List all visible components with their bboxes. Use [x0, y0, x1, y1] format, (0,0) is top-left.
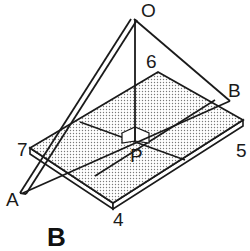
label-6: 6	[146, 51, 157, 72]
label-4: 4	[113, 209, 124, 230]
figure-caption: B	[47, 222, 66, 251]
label-a: A	[6, 189, 19, 210]
label-7: 7	[17, 139, 28, 160]
geometry-figure: O 6 B 7 5 P A 4 B	[0, 0, 250, 251]
label-p: P	[130, 145, 143, 166]
label-b: B	[228, 80, 241, 101]
label-o: O	[141, 0, 156, 21]
label-5: 5	[236, 140, 247, 161]
